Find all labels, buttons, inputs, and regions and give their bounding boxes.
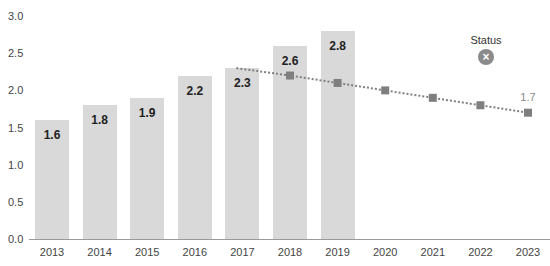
square-marker-icon (429, 94, 437, 102)
square-marker-icon (381, 86, 389, 94)
projection-end-label: 1.7 (520, 91, 535, 103)
chart-area: 0.00.51.01.52.02.53.0 1.61.81.92.22.32.6… (0, 0, 550, 266)
square-marker-icon (524, 109, 532, 117)
status-label: Status (466, 34, 506, 46)
square-marker-icon (286, 72, 294, 80)
status-annotation: Status × (466, 34, 506, 65)
square-marker-icon (476, 101, 484, 109)
square-marker-icon (334, 79, 342, 87)
x-circle-icon: × (478, 49, 494, 65)
